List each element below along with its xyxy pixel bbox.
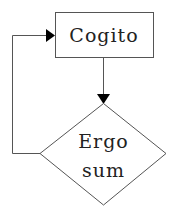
arrowhead-down-icon	[97, 94, 110, 104]
node-cogito: Cogito	[56, 13, 154, 58]
node-ergo-sum: Ergo sum	[40, 104, 166, 206]
edge-cogito-to-ergo-sum	[97, 57, 110, 104]
cogito-label: Cogito	[69, 24, 138, 46]
ergo-sum-diamond	[40, 104, 166, 206]
ergo-label: Ergo	[78, 130, 129, 152]
sum-label: sum	[82, 159, 125, 181]
edge-ergo-sum-to-cogito	[13, 29, 56, 154]
loop-connector	[13, 36, 49, 154]
flowchart-canvas: Cogito Ergo sum	[0, 0, 175, 216]
arrowhead-right-icon	[46, 29, 55, 42]
